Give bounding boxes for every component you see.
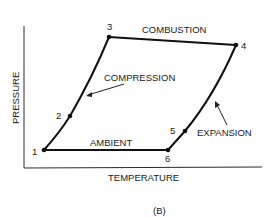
point-3-marker (107, 35, 112, 40)
y-axis-label: PRESSURE (10, 72, 21, 124)
point-2-label: 2 (56, 110, 61, 121)
figure-caption: (B) (153, 205, 166, 216)
expansion-arrow (215, 101, 227, 125)
pressure-temperature-diagram: PRESSURE TEMPERATURE 1 2 3 4 5 6 COMBUST… (0, 0, 275, 217)
combustion-line (109, 37, 236, 45)
compression-label: COMPRESSION (104, 72, 175, 83)
point-4-marker (234, 43, 239, 48)
point-6-label: 6 (165, 153, 170, 164)
x-axis-label: TEMPERATURE (108, 172, 179, 183)
expansion-label: EXPANSION (197, 127, 252, 138)
point-2-marker (68, 114, 73, 119)
point-1-label: 1 (32, 146, 37, 157)
point-4-label: 4 (241, 40, 246, 51)
x-axis (24, 167, 262, 168)
point-3-label: 3 (107, 21, 112, 32)
point-5-label: 5 (170, 125, 175, 136)
compression-curve (44, 37, 109, 150)
compression-arrow (86, 84, 124, 97)
point-5-marker (183, 129, 188, 134)
point-1-marker (42, 148, 47, 153)
ambient-label: AMBIENT (90, 137, 132, 148)
point-6-marker (166, 148, 171, 153)
combustion-label: COMBUSTION (142, 24, 207, 35)
